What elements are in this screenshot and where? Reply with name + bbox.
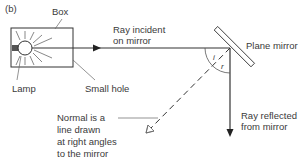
panel-label: (b) [5,3,17,14]
angle-r-label: r [221,61,224,72]
angle-i-label: i [213,52,215,63]
incident-ray-label: Ray incident on mirror [113,24,165,46]
lamp-bulb [18,41,32,55]
lamp-label: Lamp [12,83,36,94]
normal-line [151,48,230,128]
small-hole-label: Small hole [85,83,129,94]
reflected-ray-label: Ray reflected from mirror [241,110,297,132]
incident-ray-arrow-icon [93,45,101,52]
box-label: Box [52,6,68,17]
normal-label: Normal is a line drawn at right angles t… [57,112,117,160]
plane-mirror-label: Plane mirror [246,40,298,51]
reflected-ray-arrow-icon [227,129,234,137]
